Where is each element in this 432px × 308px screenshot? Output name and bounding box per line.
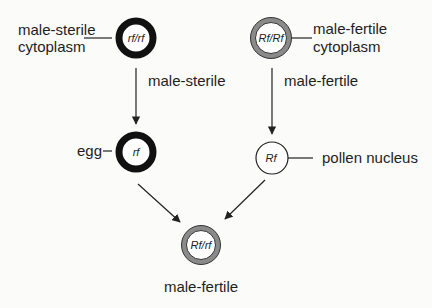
node-mf-parent: Rf/Rf male-fertile cytoplasm xyxy=(251,18,388,59)
genotype-label: Rf/Rf xyxy=(258,32,284,44)
diagram-canvas: rf/rf male-sterile cytoplasm Rf/Rf male-… xyxy=(0,0,432,308)
node-pollen: Rf pollen nucleus xyxy=(256,142,418,174)
node-egg: rf egg xyxy=(77,135,153,169)
pollen-nucleus-label: pollen nucleus xyxy=(322,149,418,166)
genotype-label: rf xyxy=(133,146,141,158)
egg-label: egg xyxy=(77,142,102,159)
ms-cytoplasm-label-line2: cytoplasm xyxy=(18,38,86,55)
node-offspring: Rf/rf male-fertile xyxy=(164,226,238,296)
genotype-label: rf/rf xyxy=(128,32,145,44)
offspring-label: male-fertile xyxy=(164,278,238,295)
arrow-pollen-to-offspring xyxy=(225,180,265,219)
arrow-egg-to-offspring xyxy=(138,184,180,222)
node-ms-parent: rf/rf male-sterile cytoplasm xyxy=(18,21,153,55)
edge-label-male-sterile: male-sterile xyxy=(148,72,226,89)
mf-cytoplasm-label-line2: cytoplasm xyxy=(313,38,381,55)
ms-cytoplasm-label-line1: male-sterile xyxy=(18,21,96,38)
cross-diagram: rf/rf male-sterile cytoplasm Rf/Rf male-… xyxy=(0,0,432,308)
genotype-label: Rf/rf xyxy=(191,239,213,251)
edge-label-male-fertile: male-fertile xyxy=(284,72,358,89)
genotype-label: Rf xyxy=(266,152,278,164)
mf-cytoplasm-label-line1: male-fertile xyxy=(313,20,387,37)
